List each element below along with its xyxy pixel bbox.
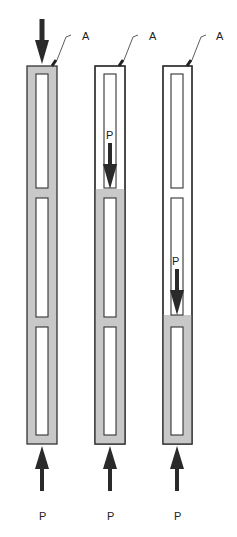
column-1: A P (27, 19, 90, 522)
column-3: A P P (163, 30, 224, 522)
column-1-cell-3 (36, 327, 48, 435)
column-1-bottom-load-arrow-icon (35, 446, 49, 491)
column-3-label-a-leader (187, 35, 206, 66)
column-2-internal-label-p: P (106, 129, 113, 141)
column-3-cell-1 (171, 74, 183, 188)
column-1-label-a: A (82, 30, 90, 42)
column-1-top-load-arrow-icon (35, 19, 49, 64)
column-1-label-p: P (39, 510, 46, 522)
column-3-internal-label-p: P (172, 255, 179, 267)
column-2-cell-2 (104, 198, 116, 317)
column-3-label-p: P (174, 510, 181, 522)
column-3-bottom-load-arrow-icon (170, 446, 184, 491)
column-2: A P P (95, 30, 157, 522)
column-1-cell-2 (36, 198, 48, 317)
column-2-label-a: A (149, 30, 157, 42)
column-2-bottom-load-arrow-icon (103, 446, 117, 491)
column-2-label-a-leader (119, 35, 138, 66)
column-2-cell-3 (104, 327, 116, 435)
column-3-label-a: A (216, 30, 224, 42)
column-2-label-p: P (107, 510, 114, 522)
column-load-diagram: A P A P P (0, 0, 237, 537)
column-3-cell-3 (171, 327, 183, 435)
column-1-label-a-leader (52, 35, 71, 66)
column-1-cell-1 (36, 74, 48, 188)
